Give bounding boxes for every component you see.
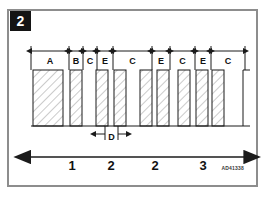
bar-group [33,70,224,126]
drawing-svg: ABCECECEC D 1223 AD41338 [0,0,274,203]
bar-4 [114,70,126,126]
technical-drawing: ABCECECEC D 1223 AD41338 [0,0,274,203]
axis-number-4: 3 [199,158,206,173]
dimension-label-e-5: E [158,56,164,66]
dimension-label-c-2: C [87,56,94,66]
dimension-label-c-4: C [129,56,136,66]
dimension-label-e-7: E [200,56,206,66]
bar-1 [33,70,63,126]
axis-number-1: 1 [68,158,75,173]
dimension-label-c-8: C [225,56,232,66]
bar-7 [178,70,190,126]
dimension-label-e-3: E [102,56,108,66]
dimension-label-a-0: A [47,56,54,66]
top-dimension-group: ABCECECEC [31,46,245,70]
reference-code: AD41338 [221,165,244,171]
gap-dimension-group: D [96,126,127,142]
bar-2 [70,70,82,126]
step-profile [243,70,250,126]
axis-number-2: 2 [107,158,114,173]
figure-screenshot: 2 ABCECECEC [0,0,274,203]
sequence-axis-group: 1223 [31,157,245,173]
bar-5 [140,70,152,126]
bar-8 [196,70,208,126]
bar-6 [157,70,169,126]
axis-number-3: 2 [151,158,158,173]
dimension-label-b-1: B [73,56,80,66]
gap-dimension-label: D [108,132,115,142]
dimension-label-c-6: C [179,56,186,66]
bar-3 [96,70,108,126]
bar-9 [212,70,224,126]
